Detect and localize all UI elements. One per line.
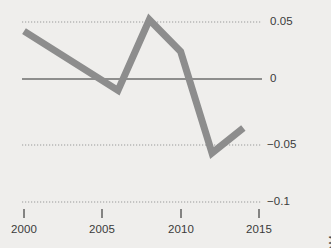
x-tick-label-2015: 2015 (246, 224, 272, 236)
x-tick-label-2010: 2010 (168, 224, 194, 236)
y-tick-label-0: 0.05 (270, 16, 293, 28)
y-tick-label-3: −0.1 (267, 196, 290, 208)
data-series-line (24, 20, 243, 153)
chart-canvas (0, 0, 331, 248)
economic-freedom-line-chart: 0.05 0 −0.05 −0.1 2000 2005 2010 2015 EC… (0, 0, 331, 248)
y-tick-label-1: 0 (270, 73, 277, 85)
x-tick-label-2005: 2005 (89, 224, 115, 236)
y-tick-label-2: −0.05 (267, 139, 297, 151)
x-axis-ticks-group (24, 209, 259, 218)
x-tick-label-2000: 2000 (11, 224, 37, 236)
